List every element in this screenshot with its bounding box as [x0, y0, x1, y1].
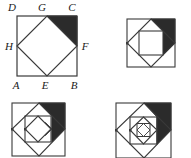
panel-three-level-nesting: [8, 99, 74, 158]
panel-four-level-nesting: [112, 99, 180, 158]
vertex-label-F: F: [81, 40, 89, 52]
vertex-tick-left: [126, 42, 129, 45]
vertex-label-B: B: [71, 79, 78, 91]
vertex-tick-left: [115, 129, 118, 132]
vertex-label-A: A: [12, 79, 20, 91]
panel-two-level-nesting: [122, 14, 184, 76]
nested-squares-figure: D G C H F A E B: [0, 0, 191, 158]
vertex-label-E: E: [41, 79, 49, 91]
square-level-2: [139, 31, 163, 55]
vertex-label-G: G: [38, 1, 46, 13]
vertex-label-H: H: [4, 40, 14, 52]
square-level-3: [25, 116, 51, 142]
vertex-label-D: D: [7, 1, 16, 13]
panel-square-abcd: D G C H F A E B: [6, 2, 92, 94]
vertex-tick-inner-left: [24, 128, 27, 131]
vertex-tick-inner-left: [129, 129, 132, 132]
vertex-label-C: C: [68, 1, 76, 13]
vertex-tick-left: [11, 128, 14, 131]
